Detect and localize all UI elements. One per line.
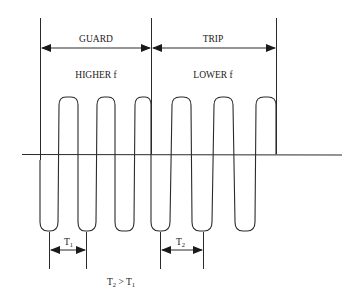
guard-frequency-label: HIGHER f <box>75 70 117 80</box>
t1-label: T1 <box>64 237 73 248</box>
trip-frequency-label: LOWER f <box>193 70 233 80</box>
signal-waveform <box>40 97 276 231</box>
t2-label: T2 <box>176 237 185 248</box>
baseline-axis <box>22 155 342 156</box>
guard-label: GUARD <box>79 34 113 44</box>
trip-label: TRIP <box>203 34 224 44</box>
frequency-shift-diagram: GUARD TRIP HIGHER f LOWER f T1 T2 T2 > T… <box>0 0 358 299</box>
period-relation-label: T2 > T1 <box>107 277 135 288</box>
